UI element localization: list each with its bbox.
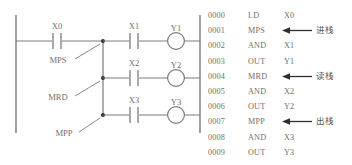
contact-label-x1: X1 xyxy=(129,21,140,31)
mrd-pointer-line xyxy=(75,81,100,96)
instruction-operand: X2 xyxy=(284,84,294,99)
contact-x3 xyxy=(130,107,138,123)
instruction-operand: Y3 xyxy=(284,145,294,160)
instruction-operand: X1 xyxy=(284,38,294,53)
contact-x2 xyxy=(130,70,138,86)
left-arrow-icon xyxy=(282,72,312,81)
contact-x0 xyxy=(53,33,61,49)
instruction-address: 0001 xyxy=(208,23,238,38)
coil-label-y1: Y1 xyxy=(171,23,182,33)
annotation-text: 读栈 xyxy=(316,69,335,84)
instruction-mnemonic: MRD xyxy=(248,69,278,84)
instruction-address: 0000 xyxy=(208,8,238,23)
instruction-row: 0008 AND X3 xyxy=(208,130,352,145)
instruction-mnemonic: LD xyxy=(248,8,278,23)
stack-label-mpp: MPP xyxy=(55,128,72,138)
contact-x1 xyxy=(130,33,138,49)
instruction-address: 0008 xyxy=(208,130,238,145)
coil-y3 xyxy=(168,107,185,124)
annotation-read-stack: 读栈 xyxy=(282,69,335,84)
left-arrow-icon xyxy=(282,117,312,126)
instruction-row: 0002 AND X1 xyxy=(208,38,352,53)
instruction-mnemonic: OUT xyxy=(248,54,278,69)
contact-label-x2: X2 xyxy=(129,58,140,68)
instruction-row: 0007 MPP 出栈 xyxy=(208,114,352,129)
instruction-address: 0004 xyxy=(208,69,238,84)
instruction-mnemonic: MPS xyxy=(248,23,278,38)
instruction-row: 0001 MPS 进栈 xyxy=(208,23,352,38)
instruction-row: 0003 OUT Y1 xyxy=(208,54,352,69)
annotation-push-stack: 进栈 xyxy=(282,23,335,38)
instruction-row: 0009 OUT Y3 xyxy=(208,145,352,160)
instruction-row: 0004 MRD 读栈 xyxy=(208,69,352,84)
instruction-mnemonic: AND xyxy=(248,84,278,99)
coil-label-y3: Y3 xyxy=(171,97,182,107)
annotation-pop-stack: 出栈 xyxy=(282,114,335,129)
coil-label-y2: Y2 xyxy=(171,60,182,70)
instruction-operand: Y1 xyxy=(284,54,294,69)
instruction-address: 0007 xyxy=(208,114,238,129)
instruction-mnemonic: MPP xyxy=(248,114,278,129)
instruction-operand: Y2 xyxy=(284,99,294,114)
instruction-address: 0003 xyxy=(208,54,238,69)
plc-ladder-diagram-figure: X0 MPS MRD MPP X1 Y1 X2 xyxy=(0,0,352,165)
annotation-text: 出栈 xyxy=(316,114,335,129)
instruction-mnemonic: OUT xyxy=(248,145,278,160)
coil-y2 xyxy=(168,70,185,87)
mps-pointer-line xyxy=(75,44,100,59)
instruction-mnemonic: OUT xyxy=(248,99,278,114)
stack-label-mps: MPS xyxy=(49,55,66,65)
left-arrow-icon xyxy=(282,26,312,35)
instruction-row: 0000 LD X0 xyxy=(208,8,352,23)
instruction-address: 0005 xyxy=(208,84,238,99)
instruction-list: 0000 LD X0 0001 MPS 进栈 0002 AND X1 0003 … xyxy=(208,8,352,160)
annotation-text: 进栈 xyxy=(316,23,335,38)
instruction-operand: X0 xyxy=(284,8,294,23)
contact-label-x0: X0 xyxy=(52,21,63,31)
instruction-operand: X3 xyxy=(284,130,294,145)
instruction-row: 0006 OUT Y2 xyxy=(208,99,352,114)
mpp-pointer-line xyxy=(79,118,100,132)
instruction-address: 0002 xyxy=(208,38,238,53)
coil-y1 xyxy=(168,33,185,50)
instruction-mnemonic: AND xyxy=(248,38,278,53)
instruction-address: 0009 xyxy=(208,145,238,160)
contact-label-x3: X3 xyxy=(129,95,140,105)
stack-label-mrd: MRD xyxy=(48,92,68,102)
instruction-mnemonic: AND xyxy=(248,130,278,145)
instruction-address: 0006 xyxy=(208,99,238,114)
instruction-row: 0005 AND X2 xyxy=(208,84,352,99)
ladder-diagram: X0 MPS MRD MPP X1 Y1 X2 xyxy=(0,0,208,165)
